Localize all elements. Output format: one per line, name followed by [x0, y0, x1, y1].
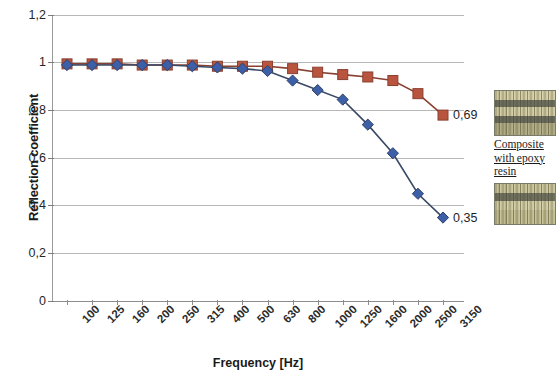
y-tick-label: 0,2 — [12, 246, 46, 260]
data-point-marker — [287, 75, 298, 86]
x-tick-label: 1250 — [357, 303, 384, 330]
x-tick-label: 500 — [255, 303, 277, 325]
y-tick-label: 0,6 — [12, 151, 46, 165]
y-tick-label: 0 — [12, 294, 46, 308]
y-tick-label: 1,2 — [12, 8, 46, 22]
composite-layer-band — [495, 210, 555, 224]
x-tick-label: 1000 — [332, 303, 359, 330]
data-point-marker — [313, 67, 323, 77]
x-tick-label: 200 — [155, 303, 177, 325]
y-tick-label: 1 — [12, 55, 46, 69]
y-tick-mark — [48, 301, 54, 302]
x-axis-title: Frequency [Hz] — [52, 356, 464, 370]
plot-area — [52, 15, 464, 301]
reflection-coefficient-chart: Reflection coefficient 1,2 1 0,8 0,6 0,4… — [0, 0, 558, 379]
y-tick-label: 0,8 — [12, 103, 46, 117]
composite-layer-band — [495, 201, 555, 210]
x-tick-label: 160 — [130, 303, 152, 325]
x-tick-label: 2500 — [432, 303, 459, 330]
series-line — [67, 64, 443, 115]
y-axis-tick-labels: 1,2 1 0,8 0,6 0,4 0,2 0 — [8, 0, 46, 379]
composite-sample-photo-top — [494, 90, 556, 136]
composite-layer-band — [495, 193, 555, 201]
composite-layer-band — [495, 91, 555, 100]
x-tick-label: 1600 — [382, 303, 409, 330]
x-tick-label: 315 — [205, 303, 227, 325]
data-label-blue-endpoint: 0,35 — [453, 211, 477, 225]
legend-caption: Composite with epoxy resin — [494, 136, 556, 181]
legend-panel: Composite with epoxy resin — [494, 90, 556, 240]
composite-layer-band — [495, 184, 555, 193]
x-axis-tick-labels: 1001251602002503154005006308001000125016… — [52, 303, 464, 355]
data-point-marker — [338, 70, 348, 80]
series-plot — [53, 15, 465, 301]
data-label-red-endpoint: 0,69 — [453, 108, 477, 122]
x-tick-label: 630 — [280, 303, 302, 325]
y-tick-label: 0,4 — [12, 198, 46, 212]
x-tick-label: 250 — [180, 303, 202, 325]
x-tick-label: 125 — [105, 303, 127, 325]
composite-layer-band — [495, 116, 555, 123]
data-point-marker — [388, 76, 398, 86]
x-tick-label: 100 — [80, 303, 102, 325]
x-axis-line — [53, 301, 464, 302]
series-line — [67, 65, 443, 218]
data-point-marker — [288, 64, 298, 74]
data-point-marker — [438, 110, 448, 120]
data-point-marker — [312, 84, 323, 95]
composite-layer-band — [495, 100, 555, 107]
x-tick-label: 400 — [230, 303, 252, 325]
data-point-marker — [413, 89, 423, 99]
data-point-marker — [363, 72, 373, 82]
x-tick-label: 800 — [305, 303, 327, 325]
composite-layer-band — [495, 107, 555, 116]
x-tick-label: 3150 — [457, 303, 484, 330]
composite-sample-photo-bottom — [494, 183, 556, 225]
composite-layer-band — [495, 123, 555, 135]
x-tick-label: 2000 — [407, 303, 434, 330]
